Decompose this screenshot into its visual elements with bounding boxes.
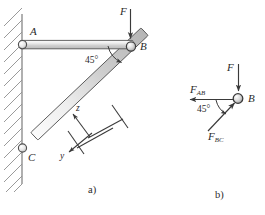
load-label-f: F — [120, 6, 127, 17]
fbd-force-fbc-arrow — [208, 103, 235, 131]
fbd-force-fbc-main: F — [208, 130, 215, 142]
fbd-force-label-f: F — [227, 62, 234, 73]
fbd-force-label-fbc: FBC — [208, 131, 223, 143]
fbd-force-fab-sub: AB — [197, 89, 205, 96]
statics-figure — [0, 0, 265, 215]
joint-c-pin — [18, 144, 26, 152]
joint-label-c: C — [28, 152, 35, 163]
fbd-joint-b-node — [233, 94, 243, 104]
joint-b-pin — [126, 42, 135, 51]
panel-a-label: a) — [88, 185, 96, 196]
fbd-force-fab-main: F — [190, 83, 197, 95]
axis-label-y: y — [60, 152, 64, 162]
angle-label-45: 45° — [85, 56, 98, 66]
fbd-joint-label-b: B — [248, 93, 255, 104]
fbd-force-fbc-sub: BC — [215, 136, 224, 143]
panel-b — [190, 64, 243, 131]
wall-hatching — [4, 8, 22, 192]
fbd-angle-45-arc — [216, 100, 226, 114]
joint-label-a: A — [30, 26, 37, 37]
member-ab — [20, 40, 133, 48]
fbd-angle-label-45: 45° — [197, 105, 210, 115]
joint-label-b: B — [140, 41, 147, 52]
joint-a-pin — [18, 41, 26, 49]
wall-support — [4, 8, 22, 192]
panel-a — [4, 8, 148, 192]
axis-label-z: z — [76, 104, 80, 114]
panel-b-label: b) — [215, 190, 224, 201]
fbd-force-label-fab: FAB — [190, 84, 205, 96]
